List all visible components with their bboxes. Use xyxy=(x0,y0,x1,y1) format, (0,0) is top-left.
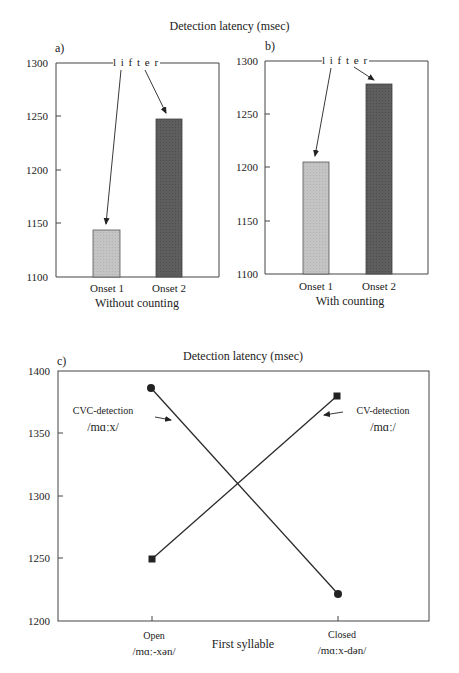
panel-c-label: c) xyxy=(57,354,66,368)
bar-onset-1 xyxy=(303,162,329,274)
panel-b-xlabel: With counting xyxy=(316,294,385,308)
x-label-open: Open xyxy=(143,630,165,641)
panel-a-label: a) xyxy=(55,41,64,55)
svg-text:1300: 1300 xyxy=(26,57,49,69)
cvc-point-open xyxy=(147,384,155,392)
bar-onset-2 xyxy=(156,119,182,277)
lifter-annotation: l i f t e r xyxy=(322,54,368,66)
svg-text:1200: 1200 xyxy=(236,161,259,173)
lifter-arrow-onset-2 xyxy=(354,67,374,80)
svg-text:1150: 1150 xyxy=(26,217,48,229)
svg-text:1200: 1200 xyxy=(26,164,49,176)
x-label-open-ipa: /mɑː-xən/ xyxy=(132,645,176,657)
panel-b-chart: b) 1300 1250 1200 1150 1100 l i f t e r … xyxy=(236,39,428,308)
svg-text:1100: 1100 xyxy=(26,271,48,283)
panel-b-label: b) xyxy=(265,39,275,53)
lifter-arrow-onset-1 xyxy=(315,68,331,156)
svg-text:1350: 1350 xyxy=(28,427,51,439)
panel-a-frame xyxy=(56,63,219,277)
cv-point-open xyxy=(149,556,156,563)
x-label-closed-ipa: /mɑːx-dən/ xyxy=(318,644,367,656)
svg-text:1300: 1300 xyxy=(28,490,51,502)
x-label-closed: Closed xyxy=(328,629,356,640)
svg-text:1250: 1250 xyxy=(28,552,51,564)
panel-b-frame xyxy=(265,61,428,274)
x-label-onset-2: Onset 2 xyxy=(152,282,186,294)
cv-detection-ipa: /mɑː/ xyxy=(370,420,396,434)
svg-text:1250: 1250 xyxy=(26,110,49,122)
cvc-point-closed xyxy=(334,590,342,598)
svg-text:1100: 1100 xyxy=(236,268,258,280)
cv-label-arrow xyxy=(324,412,343,415)
svg-text:1250: 1250 xyxy=(236,108,259,120)
lifter-arrow-onset-2 xyxy=(145,70,166,113)
lifter-annotation: l i f t e r xyxy=(113,56,159,68)
cvc-detection-line xyxy=(151,388,338,594)
svg-text:1300: 1300 xyxy=(236,55,259,67)
lifter-arrow-onset-1 xyxy=(106,70,121,224)
panel-c-chart: c) Detection latency (msec) 1400 1350 13… xyxy=(28,349,429,657)
cv-point-closed xyxy=(334,393,341,400)
cvc-detection-ipa: /mɑːx/ xyxy=(87,420,119,434)
panel-c-title: Detection latency (msec) xyxy=(183,349,303,363)
panel-a-xlabel: Without counting xyxy=(95,296,179,310)
svg-text:1150: 1150 xyxy=(236,215,258,227)
bar-onset-1 xyxy=(93,230,120,277)
x-label-onset-1: Onset 1 xyxy=(90,282,124,294)
x-label-onset-2: Onset 2 xyxy=(362,280,396,292)
panel-a-chart: a) 1300 1250 1200 1150 1100 l i f t e r … xyxy=(26,41,219,310)
panel-c-xlabel: First syllable xyxy=(212,637,274,651)
cv-detection-label: CV-detection xyxy=(357,405,410,416)
figure-canvas: a) 1300 1250 1200 1150 1100 l i f t e r … xyxy=(0,0,459,673)
cvc-label-arrow xyxy=(155,417,171,420)
cvc-detection-label: CVC-detection xyxy=(73,405,134,416)
x-label-onset-1: Onset 1 xyxy=(299,280,333,292)
bar-onset-2 xyxy=(366,84,392,274)
svg-text:1400: 1400 xyxy=(28,365,51,377)
svg-text:1200: 1200 xyxy=(28,615,51,627)
